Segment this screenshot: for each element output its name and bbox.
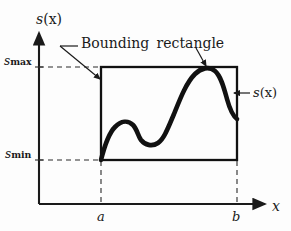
y-axis-label: s(x) xyxy=(36,12,62,26)
annotation-bounding-rectangle: Bounding rectangle xyxy=(81,36,224,50)
curve-sx xyxy=(101,68,237,160)
curve-label-symbol: s xyxy=(253,85,260,100)
y-tick-smin-subscript: min xyxy=(11,149,31,160)
annotation-curve-label: s(x) xyxy=(253,86,277,99)
y-tick-label-smax: smax xyxy=(4,55,31,67)
x-tick-label-a: a xyxy=(97,210,105,223)
x-tick-label-b: b xyxy=(232,210,240,223)
y-axis-label-arg: (x) xyxy=(43,11,62,27)
figure-container: s(x) x smax smin a b Bounding rectangle … xyxy=(0,0,291,231)
bounding-rectangle xyxy=(101,67,237,160)
y-tick-label-smin: smin xyxy=(5,148,31,160)
x-axis-label: x xyxy=(272,199,280,213)
y-tick-smax-subscript: max xyxy=(10,56,31,67)
curve-label-arg: (x) xyxy=(260,85,277,100)
